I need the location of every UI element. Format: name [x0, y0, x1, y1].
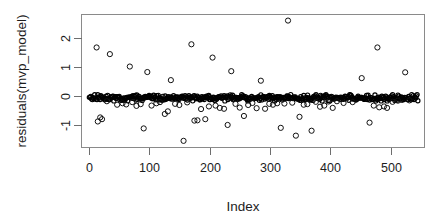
- y-tick-label: 1: [59, 64, 73, 71]
- scatter-plot-canvas: 210-1 0100200300400500 residuals(mvp_mod…: [0, 0, 442, 222]
- x-tick-label: 0: [86, 161, 93, 175]
- x-tick-label: 100: [139, 161, 160, 175]
- x-tick-label: 500: [381, 161, 402, 175]
- y-tick-label: 0: [59, 93, 73, 100]
- x-tick-label: 400: [320, 161, 341, 175]
- y-tick-label: -1: [59, 120, 73, 131]
- y-axis-label: residuals(mvp_model): [14, 15, 29, 148]
- y-tick-label: 2: [59, 35, 73, 42]
- x-axis-label: Index: [226, 199, 259, 214]
- x-tick-label: 200: [200, 161, 221, 175]
- plot-area-box: [82, 15, 425, 148]
- residual-plot-figure: 210-1 0100200300400500 residuals(mvp_mod…: [0, 0, 442, 222]
- x-tick-label: 300: [260, 161, 281, 175]
